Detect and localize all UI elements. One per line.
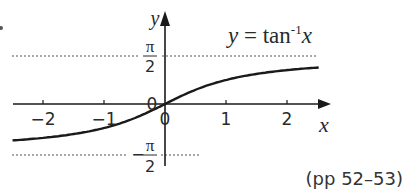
x-tick-label: 2 [282,109,293,129]
title-sup: -1 [291,22,302,37]
y-axis-label: y [149,7,160,30]
pi-over-2-denominator: 2 [145,57,155,76]
title-lhs: y [226,23,239,48]
origin-label-left: 0 [147,94,158,114]
edge-mark [0,26,3,30]
neg-pi-over-2-denominator: 2 [145,157,155,176]
x-tick-label: −2 [30,109,55,129]
x-tick-label: 1 [221,109,232,129]
origin-label: 0 [160,109,171,129]
arctan-graph: −2−112 0 0 y x π 2 − π 2 y = tan-1x [0,0,407,196]
neg-pi-over-2-numerator: π [146,136,155,155]
page-reference: (pp 52–53) [306,168,403,189]
neg-pi-over-2-sign: − [131,145,144,164]
pi-over-2-numerator: π [146,37,155,56]
x-axis-arrow-icon [318,99,331,109]
x-axis-label: x [318,112,329,137]
x-tick-label: −1 [91,109,116,129]
title-eq: = tan [238,23,291,48]
y-axis-arrow-icon [160,11,170,26]
chart-title: y = tan-1x [226,22,313,48]
title-var: x [301,23,313,48]
